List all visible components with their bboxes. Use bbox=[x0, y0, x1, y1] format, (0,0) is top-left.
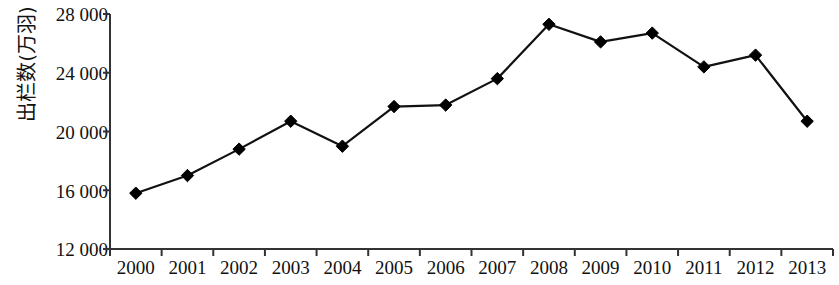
chart-plot-area bbox=[0, 0, 839, 285]
data-series-line bbox=[136, 24, 807, 193]
x-tick-label: 2002 bbox=[220, 258, 258, 277]
x-tick-label: 2010 bbox=[633, 258, 671, 277]
x-tick-label: 2009 bbox=[582, 258, 620, 277]
data-point-marker[interactable] bbox=[698, 61, 710, 73]
x-tick-label: 2007 bbox=[478, 258, 516, 277]
data-point-marker[interactable] bbox=[439, 99, 451, 111]
x-tick-label: 2006 bbox=[427, 258, 465, 277]
x-tick-label: 2000 bbox=[117, 258, 155, 277]
x-tick-label: 2011 bbox=[685, 258, 722, 277]
x-tick-label: 2008 bbox=[530, 258, 568, 277]
data-point-marker[interactable] bbox=[646, 27, 658, 39]
x-tick-label: 2004 bbox=[323, 258, 361, 277]
x-tick-label: 2012 bbox=[737, 258, 775, 277]
data-point-marker[interactable] bbox=[181, 169, 193, 181]
data-point-marker[interactable] bbox=[594, 36, 606, 48]
x-tick-label: 2005 bbox=[375, 258, 413, 277]
x-tick-label: 2001 bbox=[168, 258, 206, 277]
chart-container: 出栏数(万羽) 28 000 24 000 20 000 16 000 12 0… bbox=[0, 0, 839, 285]
data-point-marker[interactable] bbox=[285, 115, 297, 127]
x-tick-label: 2003 bbox=[272, 258, 310, 277]
x-tick-label: 2013 bbox=[788, 258, 826, 277]
data-point-marker[interactable] bbox=[130, 187, 142, 199]
chart-axes bbox=[110, 14, 833, 249]
data-point-marker[interactable] bbox=[233, 143, 245, 155]
